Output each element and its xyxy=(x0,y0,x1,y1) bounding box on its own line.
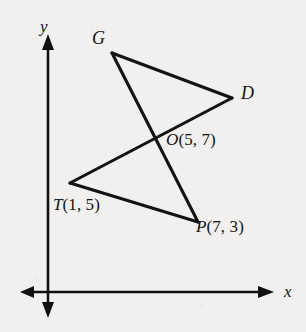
point-label-O-coords: (5, 7) xyxy=(178,130,215,149)
point-label-P-name: P xyxy=(196,217,206,236)
y-axis-label: y xyxy=(40,18,48,35)
point-label-D: D xyxy=(241,84,254,102)
point-label-G: G xyxy=(92,29,105,47)
point-label-T-name: T xyxy=(53,195,63,214)
point-label-O: O(5, 7) xyxy=(166,131,216,148)
x-axis-label: x xyxy=(284,283,292,300)
y-axis xyxy=(42,34,54,318)
y-axis-top-arrowhead xyxy=(42,34,54,50)
geometry-figure: y x G D O(5, 7) T(1, 5) P(7, 3) xyxy=(0,0,306,332)
point-label-P: P(7, 3) xyxy=(196,218,244,235)
point-label-T: T(1, 5) xyxy=(53,196,100,213)
figure-canvas xyxy=(0,0,306,332)
point-label-P-coords: (7, 3) xyxy=(206,217,243,236)
y-axis-bottom-arrowhead xyxy=(42,302,54,318)
point-label-O-name: O xyxy=(166,130,178,149)
point-label-T-coords: (1, 5) xyxy=(63,195,100,214)
x-axis-right-arrowhead xyxy=(258,286,274,298)
x-axis-left-arrowhead xyxy=(20,286,34,298)
x-axis xyxy=(20,286,274,298)
